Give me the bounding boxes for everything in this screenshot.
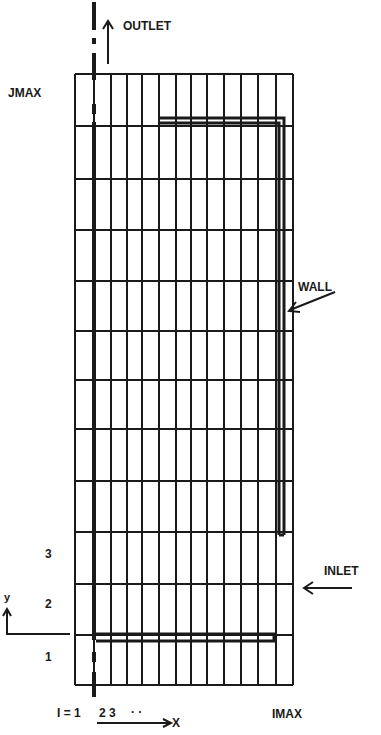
x-axis-label: X (172, 716, 180, 730)
y-axis-arrow-icon (3, 609, 70, 634)
j-row-label-2: 2 (45, 597, 52, 611)
wall-label: WALL (298, 280, 332, 294)
j-row-label-1: 1 (45, 650, 52, 664)
y-axis-label: y (4, 591, 10, 603)
j-row-label-3: 3 (45, 547, 52, 561)
i-next-label: 2 3 (99, 706, 116, 720)
inlet-arrow-icon (304, 582, 352, 594)
x-axis-arrow-icon (97, 719, 171, 727)
computational-grid-diagram (0, 0, 381, 735)
outlet-arrow-icon (103, 21, 113, 64)
outlet-label: OUTLET (123, 19, 171, 33)
wall-arrow-icon (289, 292, 335, 312)
i-index-label: I = 1 (57, 706, 81, 720)
i-dots-label: · · (131, 705, 142, 719)
inlet-label: INLET (324, 564, 359, 578)
jmax-label: JMAX (8, 86, 41, 100)
mesh-grid (75, 74, 293, 685)
imax-label: IMAX (272, 707, 302, 721)
